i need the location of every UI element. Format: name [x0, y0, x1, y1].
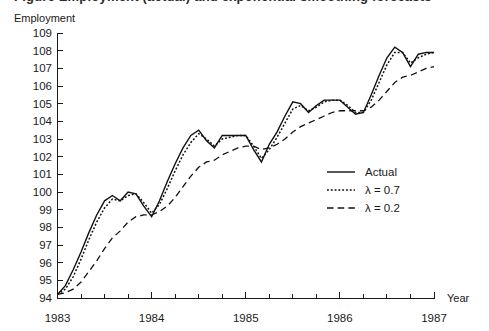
y-tick-label: 107	[33, 62, 52, 74]
y-tick-label: 98	[39, 221, 52, 233]
x-tick-label: 1984	[139, 312, 165, 324]
legend-label: λ = 0.2	[365, 202, 400, 214]
y-tick-label: 105	[33, 98, 52, 110]
figure-container: Figure Employment (actual) and exponenti…	[0, 0, 489, 331]
y-tick-label: 95	[39, 274, 52, 286]
x-axis-title: Year	[447, 292, 470, 304]
x-tick-label: 1987	[421, 312, 447, 324]
y-tick-labels: 9495969798991001011021031041051061071081…	[33, 27, 53, 304]
y-tick-label: 96	[39, 257, 52, 269]
y-tick-label: 97	[39, 239, 52, 251]
x-tick-label: 1985	[233, 312, 259, 324]
y-tick-label: 103	[33, 133, 52, 145]
legend-label: Actual	[365, 166, 397, 178]
y-tick-label: 100	[33, 186, 52, 198]
y-tick-label: 109	[33, 27, 52, 39]
x-tick-marks	[58, 292, 435, 299]
y-axis: 9495969798991001011021031041051061071081…	[33, 27, 63, 304]
y-tick-label: 104	[33, 115, 53, 127]
chart-legend: Actualλ = 0.7λ = 0.2	[327, 166, 400, 214]
employment-forecast-chart: Employment Year 949596979899100101102103…	[0, 0, 489, 331]
x-tick-label: 1983	[45, 312, 71, 324]
x-axis: 19831984198519861987	[45, 292, 447, 324]
y-tick-label: 102	[33, 151, 52, 163]
series-line-dashed	[58, 67, 435, 295]
legend-label: λ = 0.7	[365, 184, 400, 196]
y-tick-label: 106	[33, 80, 52, 92]
y-axis-title: Employment	[14, 12, 75, 24]
y-tick-label: 101	[33, 168, 52, 180]
y-tick-marks	[58, 33, 64, 298]
y-tick-label: 99	[39, 204, 52, 216]
x-tick-label: 1986	[327, 312, 353, 324]
x-tick-labels: 19831984198519861987	[45, 312, 447, 324]
y-tick-label: 108	[33, 45, 52, 57]
y-tick-label: 94	[39, 292, 52, 304]
